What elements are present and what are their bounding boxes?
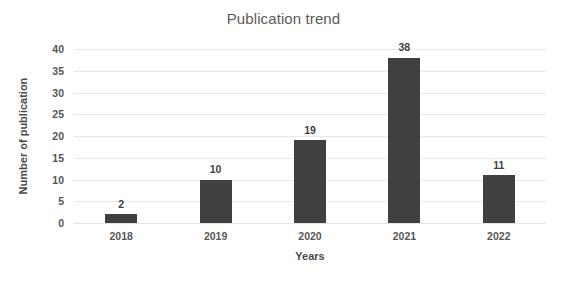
bar[interactable] <box>294 140 326 223</box>
bar-value-label: 2 <box>118 199 124 210</box>
bar-slot: 11 <box>452 49 546 223</box>
bar-value-label: 10 <box>210 164 222 175</box>
x-axis-tick-labels: 20182019202020212022 <box>74 231 546 245</box>
bar-slot: 2 <box>74 49 168 223</box>
x-axis-tick-label: 2018 <box>74 231 168 242</box>
x-axis-title: Years <box>74 250 546 262</box>
gridline <box>74 223 546 224</box>
bar-slot: 38 <box>357 49 451 223</box>
bar-value-label: 19 <box>304 125 316 136</box>
y-axis-tick-label: 0 <box>40 218 64 229</box>
bar-value-label: 11 <box>493 160 504 171</box>
x-axis-tick-label: 2021 <box>357 231 451 242</box>
y-axis-tick-label: 10 <box>40 175 64 186</box>
x-axis-tick-label: 2019 <box>168 231 262 242</box>
y-axis-tick-label: 25 <box>40 109 64 120</box>
bar[interactable] <box>483 175 515 223</box>
bar-slot: 19 <box>263 49 357 223</box>
y-axis-tick-label: 5 <box>40 196 64 207</box>
chart-title: Publication trend <box>0 10 567 27</box>
y-axis-tick-label: 35 <box>40 66 64 77</box>
plot-area: 210193811 <box>74 49 546 223</box>
y-axis-tick-label: 30 <box>40 88 64 99</box>
bar[interactable] <box>105 214 137 223</box>
bar-value-label: 38 <box>399 42 411 53</box>
y-axis-tick-label: 20 <box>40 131 64 142</box>
x-axis-tick-label: 2022 <box>452 231 546 242</box>
bar-chart: Publication trend Number of publication … <box>0 0 567 282</box>
bar[interactable] <box>200 180 232 224</box>
x-axis-tick-label: 2020 <box>263 231 357 242</box>
y-axis-tick-label: 15 <box>40 153 64 164</box>
y-axis-tick-label: 40 <box>40 44 64 55</box>
bar[interactable] <box>388 58 420 223</box>
bar-slot: 10 <box>168 49 262 223</box>
